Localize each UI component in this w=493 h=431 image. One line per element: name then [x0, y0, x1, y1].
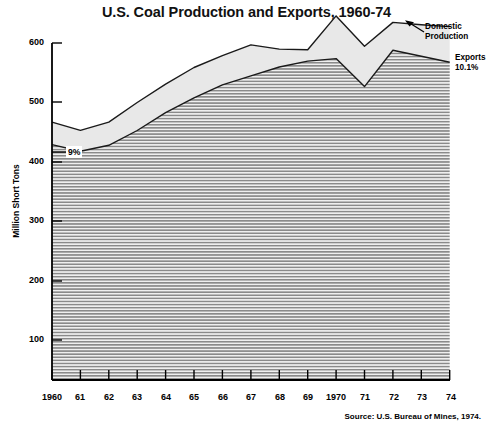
exports-callout-label: Exports 10.1%	[455, 53, 485, 73]
chart-container: U.S. Coal Production and Exports, 1960-7…	[0, 0, 493, 431]
source-note: Source: U.S. Bureau of Mines, 1974.	[345, 412, 481, 421]
series-area-domestic-production	[52, 50, 450, 380]
chart-plot-area	[0, 0, 493, 431]
domestic-production-callout-label: Domestic Production	[425, 22, 468, 42]
exports-share-1961-label: 9%	[66, 146, 82, 158]
